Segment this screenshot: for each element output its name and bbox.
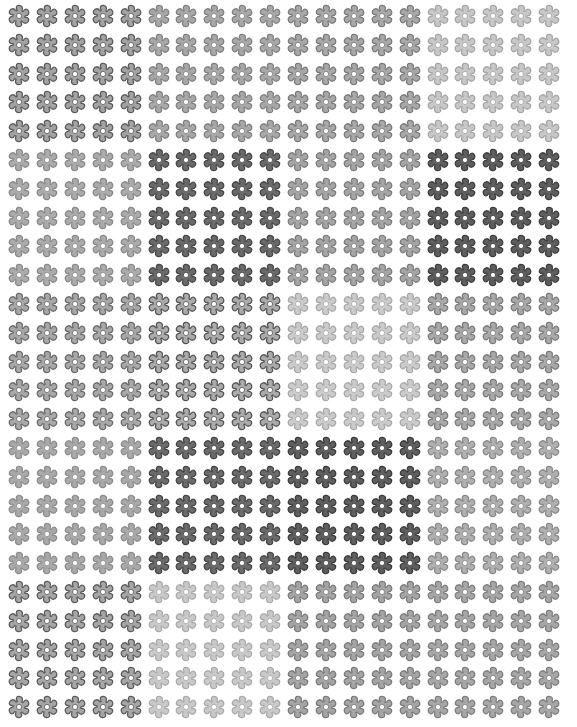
flower-icon: [285, 579, 311, 605]
flower-icon: [229, 89, 255, 115]
flower-icon: [173, 694, 199, 720]
flower-icon: [173, 205, 199, 231]
flower-icon: [313, 147, 339, 173]
flower-icon: [508, 694, 534, 720]
flower-icon: [536, 637, 562, 663]
flower-icon: [173, 349, 199, 375]
flower-icon: [285, 89, 311, 115]
flower-icon: [62, 233, 88, 259]
flower-icon: [62, 349, 88, 375]
flower-icon: [397, 493, 423, 519]
flower-icon: [285, 205, 311, 231]
flower-icon: [201, 694, 227, 720]
flower-icon: [369, 665, 395, 691]
flower-icon: [536, 694, 562, 720]
flower-icon: [118, 694, 144, 720]
flower-icon: [397, 89, 423, 115]
flower-icon: [285, 521, 311, 547]
flower-icon: [425, 320, 451, 346]
flower-icon: [118, 665, 144, 691]
flower-icon: [508, 637, 534, 663]
flower-icon: [257, 435, 283, 461]
flower-icon: [508, 349, 534, 375]
flower-icon: [452, 205, 478, 231]
flower-icon: [6, 320, 32, 346]
flower-icon: [229, 262, 255, 288]
flower-icon: [341, 291, 367, 317]
flower-icon: [425, 262, 451, 288]
flower-icon: [146, 665, 172, 691]
flower-icon: [229, 176, 255, 202]
flower-icon: [62, 550, 88, 576]
flower-icon: [452, 579, 478, 605]
flower-icon: [508, 89, 534, 115]
flower-icon: [397, 637, 423, 663]
flower-icon: [257, 118, 283, 144]
flower-icon: [313, 176, 339, 202]
flower-icon: [62, 694, 88, 720]
flower-icon: [285, 291, 311, 317]
flower-icon: [341, 89, 367, 115]
flower-icon: [201, 665, 227, 691]
flower-icon: [369, 176, 395, 202]
flower-icon: [229, 493, 255, 519]
flower-icon: [229, 406, 255, 432]
flower-icon: [480, 435, 506, 461]
flower-icon: [90, 435, 116, 461]
flower-icon: [34, 493, 60, 519]
flower-icon: [257, 233, 283, 259]
flower-icon: [6, 118, 32, 144]
flower-icon: [508, 233, 534, 259]
flower-icon: [229, 291, 255, 317]
flower-icon: [118, 320, 144, 346]
flower-icon: [285, 61, 311, 87]
flower-icon: [341, 205, 367, 231]
flower-icon: [173, 377, 199, 403]
flower-icon: [285, 3, 311, 29]
flower-icon: [397, 694, 423, 720]
flower-icon: [397, 3, 423, 29]
flower-icon: [146, 608, 172, 634]
flower-icon: [452, 493, 478, 519]
flower-icon: [369, 205, 395, 231]
flower-icon: [397, 320, 423, 346]
flower-icon: [341, 32, 367, 58]
flower-icon: [201, 3, 227, 29]
flower-icon: [257, 521, 283, 547]
flower-icon: [397, 665, 423, 691]
flower-icon: [201, 377, 227, 403]
flower-icon: [257, 550, 283, 576]
flower-icon: [452, 464, 478, 490]
flower-icon: [118, 377, 144, 403]
flower-icon: [369, 147, 395, 173]
flower-icon: [173, 320, 199, 346]
flower-icon: [6, 262, 32, 288]
flower-icon: [6, 233, 32, 259]
flower-icon: [285, 665, 311, 691]
flower-icon: [341, 349, 367, 375]
flower-icon: [425, 349, 451, 375]
flower-icon: [369, 349, 395, 375]
flower-icon: [369, 464, 395, 490]
flower-icon: [257, 579, 283, 605]
flower-icon: [118, 291, 144, 317]
flower-icon: [146, 262, 172, 288]
flower-icon: [397, 406, 423, 432]
flower-icon: [201, 61, 227, 87]
flower-icon: [508, 464, 534, 490]
flower-icon: [6, 435, 32, 461]
flower-icon: [425, 89, 451, 115]
flower-icon: [369, 320, 395, 346]
flower-icon: [536, 521, 562, 547]
flower-icon: [508, 3, 534, 29]
flower-icon: [34, 32, 60, 58]
flower-icon: [397, 349, 423, 375]
flower-icon: [173, 291, 199, 317]
flower-icon: [480, 694, 506, 720]
flower-icon: [341, 550, 367, 576]
flower-icon: [229, 205, 255, 231]
flower-icon: [201, 521, 227, 547]
flower-icon: [508, 320, 534, 346]
flower-icon: [201, 320, 227, 346]
flower-icon: [425, 205, 451, 231]
